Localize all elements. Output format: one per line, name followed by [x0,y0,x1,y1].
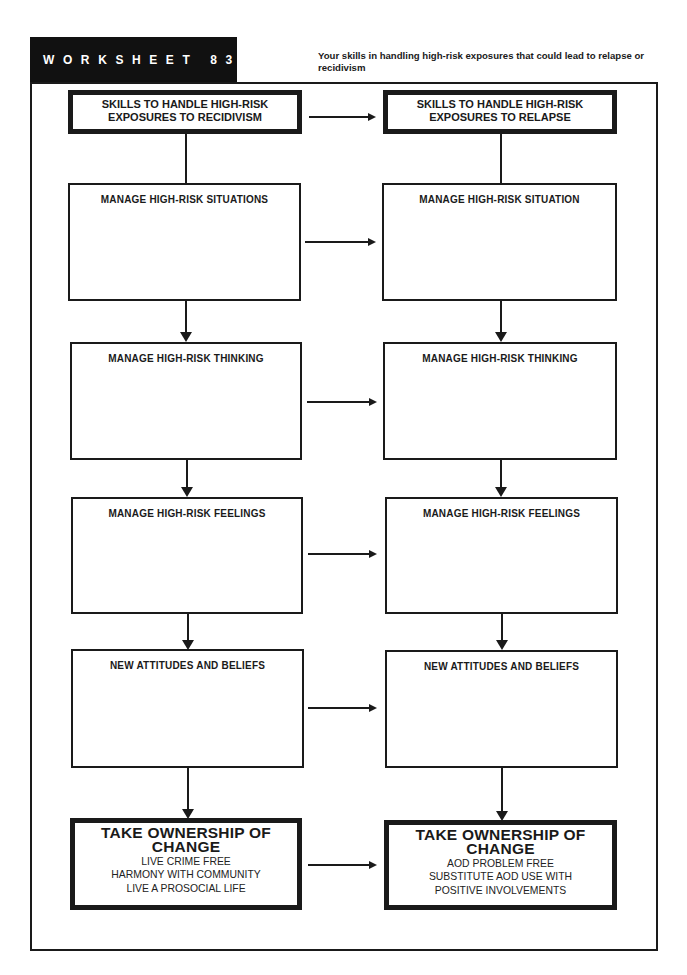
left-step-thinking[interactable]: MANAGE HIGH-RISK THINKING [70,342,302,460]
left-connector-top [185,134,187,183]
left-down-connector [187,614,189,641]
arrow-row2-connector [307,401,370,403]
right-step-label: MANAGE HIGH-RISK FEELINGS [387,508,616,519]
arrow-down-icon [180,332,192,342]
right-top-box: SKILLS TO HANDLE HIGH-RISK EXPOSURES TO … [383,90,617,134]
worksheet-subtitle: Your skills in handling high-risk exposu… [318,50,658,73]
right-outcome-box: TAKE OWNERSHIP OF CHANGE AOD PROBLEM FRE… [384,820,617,910]
right-outcome-line: AOD PROBLEM FREE [389,857,612,870]
left-top-box: SKILLS TO HANDLE HIGH-RISK EXPOSURES TO … [68,90,302,134]
arrow-top-connector [309,116,369,118]
right-down-connector [501,768,503,812]
right-top-line1: SKILLS TO HANDLE HIGH-RISK [388,95,612,111]
right-step-thinking[interactable]: MANAGE HIGH-RISK THINKING [383,342,617,460]
left-step-label: MANAGE HIGH-RISK THINKING [72,353,300,364]
right-top-line2: EXPOSURES TO RELAPSE [388,111,612,124]
arrow-row1-connector [305,241,369,243]
left-step-attitudes[interactable]: NEW ATTITUDES AND BELIEFS [71,649,304,768]
left-step-label: MANAGE HIGH-RISK FEELINGS [73,508,301,519]
right-down-connector [500,301,502,333]
arrow-outcome-connector [308,864,370,866]
right-connector-top [500,134,502,183]
right-step-label: MANAGE HIGH-RISK SITUATION [384,194,615,205]
right-down-connector [501,614,503,641]
left-down-connector [187,768,189,810]
left-outcome-line: LIVE A PROSOCIAL LIFE [75,882,297,895]
right-step-label: NEW ATTITUDES AND BELIEFS [387,661,616,672]
right-outcome-line: SUBSTITUTE AOD USE WITH [389,870,612,883]
left-outcome-box: TAKE OWNERSHIP OF CHANGE LIVE CRIME FREE… [70,818,302,910]
left-top-line1: SKILLS TO HANDLE HIGH-RISK [73,95,297,111]
left-top-line2: EXPOSURES TO RECIDIVISM [73,111,297,124]
left-outcome-title2: CHANGE [75,840,297,854]
arrow-right-icon [369,861,377,869]
right-down-connector [500,460,502,488]
left-down-connector [185,301,187,333]
left-step-situations[interactable]: MANAGE HIGH-RISK SITUATIONS [68,183,301,301]
arrow-right-icon [368,238,376,246]
worksheet-title: WORKSHEET 83 [43,53,241,67]
arrow-right-icon [368,113,376,121]
arrow-down-icon [495,332,507,342]
arrow-right-icon [369,550,377,558]
left-outcome-line: LIVE CRIME FREE [75,855,297,868]
arrow-down-icon [496,640,508,650]
right-outcome-title2: CHANGE [389,842,612,856]
arrow-right-icon [369,398,377,406]
right-step-label: MANAGE HIGH-RISK THINKING [385,353,615,364]
arrow-row4-connector [308,707,370,709]
right-step-attitudes[interactable]: NEW ATTITUDES AND BELIEFS [385,650,618,768]
right-step-situation[interactable]: MANAGE HIGH-RISK SITUATION [382,183,617,301]
left-down-connector [186,460,188,488]
left-step-label: NEW ATTITUDES AND BELIEFS [73,660,302,671]
arrow-right-icon [369,704,377,712]
left-outcome-line: HARMONY WITH COMMUNITY [75,868,297,881]
right-step-feelings[interactable]: MANAGE HIGH-RISK FEELINGS [385,497,618,614]
arrow-down-icon [181,487,193,497]
arrow-down-icon [495,487,507,497]
left-step-feelings[interactable]: MANAGE HIGH-RISK FEELINGS [71,497,303,614]
left-step-label: MANAGE HIGH-RISK SITUATIONS [70,194,299,205]
right-outcome-line: POSITIVE INVOLVEMENTS [389,884,612,897]
arrow-row3-connector [308,553,370,555]
